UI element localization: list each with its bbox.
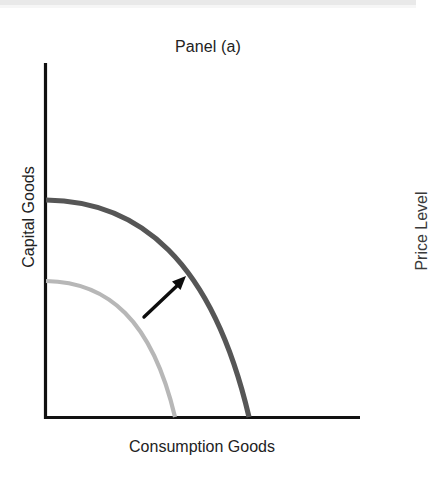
ppf-curve-original (46, 281, 175, 417)
growth-arrow (144, 276, 186, 317)
ppf-curve-expanded (46, 200, 249, 417)
